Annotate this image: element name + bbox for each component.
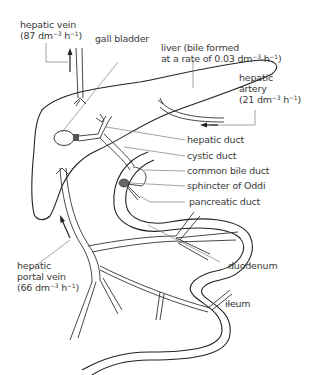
label-cystic-duct: cystic duct [187, 150, 236, 161]
leader-gall-bladder [62, 62, 118, 132]
leader-common-bile-duct [144, 170, 185, 171]
label-hepatic-vein-name: hepatic vein [20, 19, 82, 30]
leader-hepatic-vein [46, 43, 68, 62]
label-hepatic-artery-line1: hepatic [239, 72, 301, 83]
label-gall-bladder: gall bladder [95, 33, 149, 44]
leader-duodenum [148, 225, 220, 262]
label-hepatic-vein: hepatic vein (87 dm−3 h−1) [20, 19, 82, 41]
hepatic-vein-arrow [68, 48, 73, 72]
label-hepatic-artery-rate: (21 dm−3 h−1) [239, 94, 301, 105]
label-hepatic-duct: hepatic duct [187, 134, 244, 145]
gall-bladder [54, 131, 79, 146]
label-hepatic-portal-vein-rate: (66 dm−3 h−1) [17, 282, 79, 293]
leader-cystic-duct [124, 147, 185, 156]
label-liver-line2: at a rate of 0.03 dm−3 h−1) [161, 53, 281, 64]
label-hepatic-artery-line2: artery [239, 83, 301, 94]
label-duodenum: duodenum [228, 260, 277, 271]
label-pancreatic-duct: pancreatic duct [189, 196, 260, 207]
cystic-duct [100, 134, 134, 170]
hepatic-vein [74, 48, 86, 106]
hepatic-portal-vein [56, 168, 238, 340]
label-common-bile-duct: common bile duct [187, 165, 269, 176]
label-hepatic-portal-vein-line1: hepatic [17, 260, 79, 271]
label-hepatic-portal-vein: hepatic portal vein (66 dm−3 h−1) [17, 260, 79, 293]
label-hepatic-artery: hepatic artery (21 dm−3 h−1) [239, 72, 301, 105]
leader-hepatic-duct [106, 127, 185, 140]
label-hepatic-portal-vein-line2: portal vein [17, 271, 79, 282]
label-sphincter-of-oddi: sphincter of Oddi [187, 180, 265, 191]
label-liver: liver (bile formed at a rate of 0.03 dm−… [161, 42, 281, 64]
hepatic-artery-arrow [200, 110, 255, 128]
label-hepatic-vein-rate: (87 dm−3 h−1) [20, 30, 82, 41]
hepatic-artery [158, 98, 224, 122]
label-liver-line1: liver (bile formed [161, 42, 281, 53]
label-ileum: ileum [225, 298, 250, 309]
leader-pancreatic-duct [140, 196, 185, 202]
